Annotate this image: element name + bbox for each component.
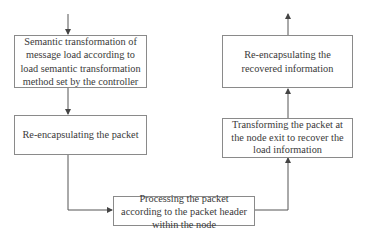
node-transform-exit: Transforming the packet at the node exit…: [222, 118, 353, 158]
node-label: Re-encapsulating the packet: [22, 128, 138, 142]
arrow-reencap-to-process: [68, 155, 112, 210]
node-semantic-transform: Semantic transformation of message load …: [14, 35, 147, 88]
node-label: Transforming the packet at the node exit…: [227, 119, 348, 157]
node-label: Processing the packet according to the p…: [118, 192, 250, 231]
node-reencap-packet: Re-encapsulating the packet: [14, 115, 147, 155]
arrow-process-to-transform: [255, 158, 288, 210]
node-process-packet: Processing the packet according to the p…: [113, 196, 255, 226]
node-label: Re-encapsulating the recovered informati…: [227, 48, 348, 75]
node-label: Semantic transformation of message load …: [19, 35, 142, 89]
node-reencap-recovered: Re-encapsulating the recovered informati…: [222, 35, 353, 88]
